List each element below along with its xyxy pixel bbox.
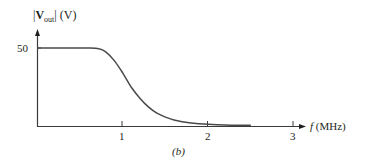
caption-text: (b)	[172, 145, 185, 157]
y-tick-label-50: 50	[17, 43, 28, 54]
x-tick-label-1: 1	[119, 131, 125, 142]
x-axis-unit: (MHz)	[316, 120, 346, 132]
x-tick-label-3: 3	[290, 131, 296, 142]
x-axis-label: f (MHz)	[310, 121, 346, 132]
figure-caption: (b)	[172, 146, 185, 157]
x-axis-arrow-icon	[299, 124, 306, 129]
y-axis-var: V	[35, 8, 44, 22]
abs-bar-right: |	[54, 8, 56, 22]
y-axis-arrow-icon	[35, 29, 40, 36]
y-axis-subscript: out	[44, 15, 54, 24]
x-axis-var: f	[310, 120, 313, 132]
vout-curve	[38, 48, 251, 125]
y-axis-unit: (V)	[60, 8, 77, 22]
y-axis-label: |Vout| (V)	[33, 9, 76, 24]
x-tick-label-2: 2	[205, 131, 211, 142]
